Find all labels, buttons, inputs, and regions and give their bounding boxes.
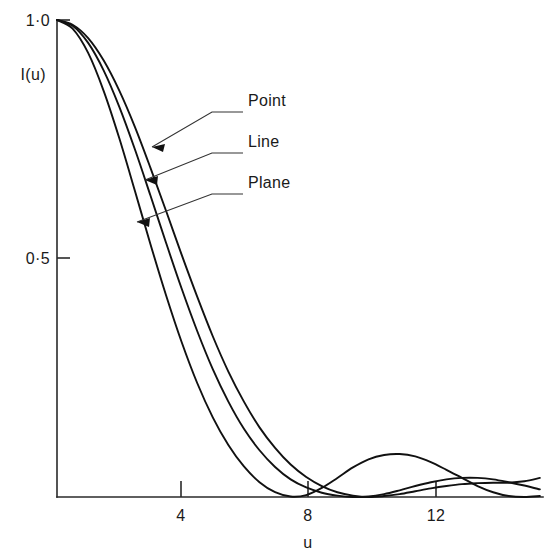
axes-group — [57, 20, 543, 497]
leader-point — [152, 112, 243, 147]
annotation-label-plane: Plane — [248, 174, 290, 191]
intensity-plot-svg: 1·0 0·5 I(u) 4 8 12 u Point Line Plane — [0, 0, 547, 556]
y-axis-title: I(u) — [20, 66, 46, 83]
x-tick-label-4: 4 — [176, 507, 185, 524]
arrowhead-point — [152, 144, 165, 152]
x-axis-title: u — [303, 534, 312, 551]
leader-plane — [137, 194, 243, 222]
leader-line — [145, 153, 243, 180]
curve-point — [57, 20, 540, 497]
axis-labels-group: 1·0 0·5 I(u) 4 8 12 u — [20, 12, 445, 551]
x-tick-label-8: 8 — [303, 507, 312, 524]
curve-plane — [57, 20, 540, 497]
annotation-label-point: Point — [248, 92, 286, 109]
curve-line — [57, 20, 540, 497]
chart-figure: 1·0 0·5 I(u) 4 8 12 u Point Line Plane — [0, 0, 547, 556]
annotation-label-line: Line — [248, 133, 279, 150]
y-tick-label-1-0: 1·0 — [26, 12, 50, 29]
annotations-group: Point Line Plane — [137, 92, 290, 227]
x-tick-label-12: 12 — [427, 507, 446, 524]
curves-group — [57, 20, 540, 497]
y-tick-label-0-5: 0·5 — [26, 250, 50, 267]
